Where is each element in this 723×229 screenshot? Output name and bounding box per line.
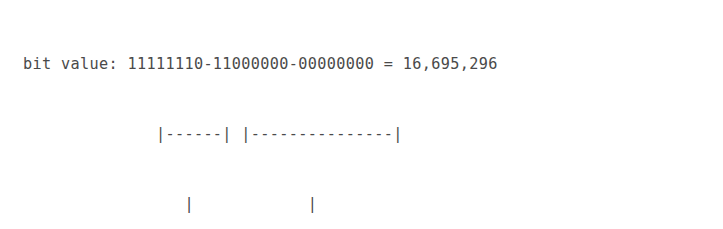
bit-value-line: bit value: 11111110-11000000-00000000 = … [23,53,555,76]
bracket-span-line: |------| |---------------| [23,123,555,146]
bit-layout-ascii-figure: bit value: 11111110-11000000-00000000 = … [23,7,555,229]
pointer-stem-line: | | [23,193,555,216]
